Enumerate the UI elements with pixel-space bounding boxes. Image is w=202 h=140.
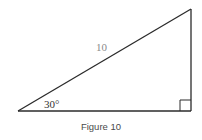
hypotenuse: [18, 9, 191, 111]
right-angle-marker: [180, 100, 191, 111]
hypotenuse-length-label: 10: [96, 41, 108, 53]
triangle-diagram: 10 30°: [0, 0, 202, 120]
figure-caption: Figure 10: [0, 121, 202, 132]
angle-label: 30°: [44, 98, 59, 110]
